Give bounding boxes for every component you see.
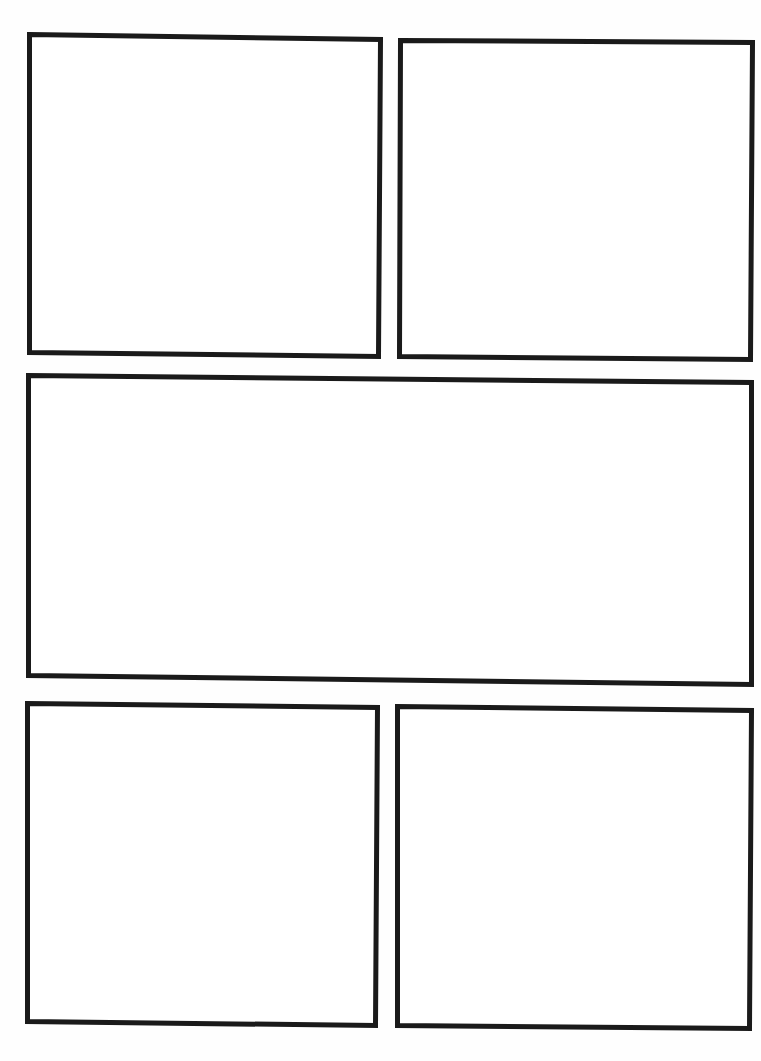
panel-5 bbox=[398, 707, 752, 1029]
panel-layout bbox=[0, 0, 761, 1061]
panel-4 bbox=[28, 704, 378, 1026]
panel-1 bbox=[30, 35, 381, 357]
comic-page bbox=[0, 0, 761, 1061]
panel-2 bbox=[400, 41, 753, 360]
panel-3 bbox=[29, 376, 752, 685]
